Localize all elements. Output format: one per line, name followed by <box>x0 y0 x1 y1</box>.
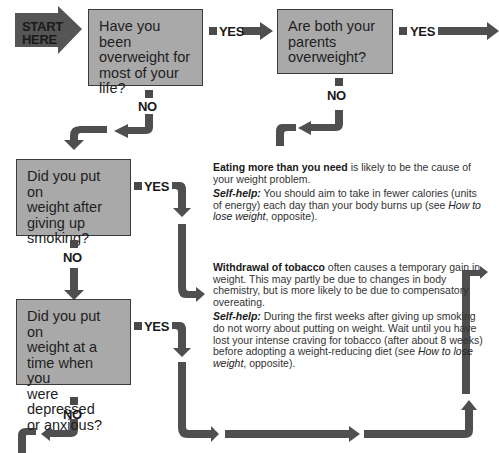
no-label-q1: NO <box>138 100 157 113</box>
yes-arrow-q3-long <box>178 224 205 302</box>
yes-arrow-q4-long <box>178 362 219 442</box>
explanation-eating: Eating more than you need is likely to b… <box>213 162 483 223</box>
q3-line: giving up <box>27 216 120 232</box>
no-arrow-q1-down <box>64 126 107 150</box>
no-arrow-q3 <box>64 268 84 300</box>
no-arrow-q1 <box>114 114 153 138</box>
eating-lead: Eating more than you need <box>213 161 348 173</box>
q3-line: weight after <box>27 200 120 216</box>
no-label-q2: NO <box>327 89 346 102</box>
tobacco-selfhelp: Self-help: During the first weeks after … <box>213 311 485 369</box>
q4-line: time when you <box>27 356 120 387</box>
no-arrow-q2-down <box>276 124 296 146</box>
q1-line: Have you been <box>99 19 192 50</box>
q1-line: most of your <box>99 66 192 82</box>
no-label-q3: NO <box>63 251 82 264</box>
no-marker-q3 <box>70 240 78 248</box>
yes-label-q3: YES <box>144 180 169 193</box>
tobacco-lead: Withdrawal of tobacco <box>213 261 325 273</box>
selfhelp-text-end: , opposite). <box>243 357 295 369</box>
no-label-q4: NO <box>63 408 82 421</box>
question-box-overweight-life: Have you been overweight for most of you… <box>88 9 203 86</box>
eating-cause: Eating more than you need is likely to b… <box>213 162 483 185</box>
yes-arrow-q2 <box>438 22 499 40</box>
q4-line: Did you put on <box>27 309 120 340</box>
yes-arrow-q1 <box>242 22 273 40</box>
no-marker-q4 <box>70 397 78 405</box>
q2-line: parents <box>288 35 382 51</box>
no-marker-q2 <box>335 78 343 86</box>
yes-label-q4: YES <box>144 320 169 333</box>
horizontal-arrow-1 <box>225 426 360 442</box>
q1-line: overweight for <box>99 50 192 66</box>
question-box-parents-overweight: Are both your parents overweight? <box>277 9 393 74</box>
selfhelp-text-end: , opposite). <box>266 210 318 222</box>
yes-arrow-q3 <box>172 182 191 217</box>
selfhelp-label: Self-help: <box>213 310 261 322</box>
horizontal-arrow-2 <box>364 400 477 438</box>
q2-line: Are both your <box>288 19 382 35</box>
q3-line: Did you put on <box>27 169 120 200</box>
yes-marker-q4 <box>134 322 142 330</box>
yes-marker-q1 <box>209 27 217 35</box>
no-marker-q1 <box>145 90 153 98</box>
q2-line: overweight? <box>288 50 382 66</box>
yes-arrow-q4 <box>172 322 191 357</box>
start-here-label: START HERE <box>22 20 63 46</box>
explanation-tobacco: Withdrawal of tobacco often causes a tem… <box>213 262 485 369</box>
yes-marker-q3 <box>134 182 142 190</box>
start-line-2: HERE <box>22 33 63 46</box>
selfhelp-label: Self-help: <box>213 187 261 199</box>
yes-label-q1: YES <box>219 25 244 38</box>
no-arrow-q2 <box>298 110 343 135</box>
q4-line: weight at a <box>27 340 120 356</box>
yes-marker-q2 <box>399 27 407 35</box>
tobacco-cause: Withdrawal of tobacco often causes a tem… <box>213 262 485 308</box>
eating-selfhelp: Self-help: You should aim to take in few… <box>213 188 483 223</box>
question-box-smoking: Did you put on weight after giving up sm… <box>16 159 131 236</box>
question-box-depressed: Did you put on weight at a time when you… <box>16 299 131 385</box>
yes-label-q2: YES <box>410 25 435 38</box>
